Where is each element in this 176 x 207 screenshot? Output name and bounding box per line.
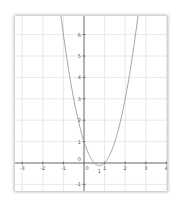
annotation-label: 1 (98, 168, 101, 174)
x-tick-label: 0 (85, 165, 88, 171)
x-tick-label: -1 (61, 165, 66, 171)
x-tick-label: 1 (103, 165, 106, 171)
y-tick-label: 5 (78, 53, 81, 59)
y-tick-label: 4 (78, 74, 81, 80)
y-tick-label: 1 (78, 139, 81, 145)
x-tick-label: -2 (40, 165, 45, 171)
parabola-curve (59, 16, 139, 166)
y-tick-label: -1 (76, 181, 81, 187)
graph-frame: -3-2-101234-101234561 (15, 16, 167, 191)
y-tick-label: 6 (78, 32, 81, 38)
x-tick-label: 2 (124, 165, 127, 171)
y-tick-label: 0 (78, 156, 81, 162)
function-plot: -3-2-101234-101234561 (15, 16, 167, 191)
x-tick-label: 3 (144, 165, 147, 171)
x-tick-label: -3 (20, 165, 25, 171)
x-tick-label: 4 (165, 165, 167, 171)
y-tick-label: 3 (78, 96, 81, 102)
